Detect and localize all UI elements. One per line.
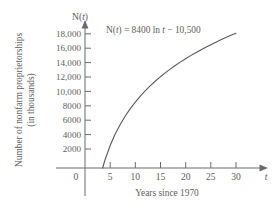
y-tick-label-12000: 12,000 bbox=[56, 72, 81, 82]
x-tick-label-15: 15 bbox=[156, 171, 166, 182]
equation-suffix: − 10,500 bbox=[165, 25, 201, 35]
x-axis-variable-label: t bbox=[265, 171, 268, 182]
equation-prefix: N( bbox=[106, 25, 116, 36]
equation-mid: ) = 8400 ln bbox=[119, 25, 163, 36]
x-tick-label-5: 5 bbox=[108, 171, 113, 182]
y-tick-label-4000: 4000 bbox=[63, 130, 82, 140]
y-tick-label-10000: 10,000 bbox=[56, 87, 81, 97]
y-axis bbox=[82, 20, 89, 196]
x-axis-label: Years since 1970 bbox=[135, 188, 199, 198]
y-axis-variable-label: N(t) bbox=[72, 11, 88, 23]
y-axis-ticks bbox=[85, 34, 91, 149]
y-tick-label-8000: 8000 bbox=[63, 101, 82, 111]
chart-figure: Number of nonfarm proprietorships (in th… bbox=[0, 0, 280, 204]
x-tick-label-10: 10 bbox=[131, 171, 141, 182]
x-axis-ticks bbox=[110, 162, 236, 168]
data-curve-logarithmic bbox=[103, 33, 236, 168]
x-tick-label-30: 30 bbox=[231, 171, 241, 182]
y-axis-variable-prefix: N( bbox=[72, 11, 82, 23]
y-tick-label-14000: 14,000 bbox=[56, 58, 81, 68]
y-axis-label-line2: (in thousands) bbox=[26, 73, 37, 126]
y-axis-label-line1: Number of nonfarm proprietorships bbox=[14, 33, 24, 167]
y-tick-labels: 18,000 16,000 14,000 12,000 10,000 8000 … bbox=[56, 29, 81, 154]
equation-annotation: N(t) = 8400 ln t − 10,500 bbox=[106, 25, 201, 36]
y-tick-label-2000: 2000 bbox=[63, 144, 82, 154]
y-tick-label-18000: 18,000 bbox=[56, 29, 81, 39]
y-tick-label-6000: 6000 bbox=[63, 115, 82, 125]
x-tick-labels: 0 5 10 15 20 25 30 bbox=[74, 171, 241, 182]
x-tick-label-0: 0 bbox=[74, 171, 79, 182]
y-axis-label: Number of nonfarm proprietorships (in th… bbox=[14, 33, 37, 167]
y-axis-variable-suffix: ) bbox=[85, 11, 88, 23]
y-tick-label-16000: 16,000 bbox=[56, 43, 81, 53]
x-tick-label-25: 25 bbox=[206, 171, 216, 182]
x-tick-label-20: 20 bbox=[181, 171, 191, 182]
log-growth-chart: Number of nonfarm proprietorships (in th… bbox=[0, 0, 280, 204]
